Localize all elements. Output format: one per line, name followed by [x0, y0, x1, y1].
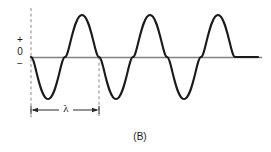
panel-caption: (B) — [110, 131, 170, 143]
wave-diagram-svg — [0, 0, 271, 152]
wave-figure-panel-b: + 0 − λ (B) — [0, 0, 271, 152]
wavelength-symbol-label: λ — [58, 103, 74, 114]
axis-label-minus: − — [17, 59, 23, 69]
wavelength-arrowhead-right — [92, 108, 99, 113]
axis-label-zero: 0 — [17, 47, 23, 57]
wavelength-arrowhead-left — [32, 108, 39, 113]
axis-label-plus: + — [17, 35, 23, 45]
amplitude-axis-labels: + 0 − — [13, 35, 27, 69]
